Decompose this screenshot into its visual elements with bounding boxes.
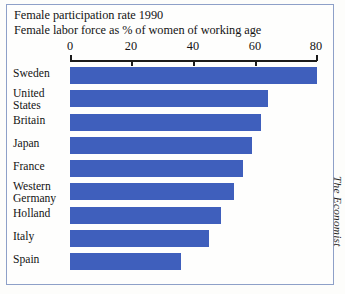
bar-row: Japan	[0, 136, 345, 159]
bar-category-label-line: United	[13, 88, 68, 99]
bar-category-label: UnitedStates	[13, 88, 68, 110]
bar-row: UnitedStates	[0, 89, 345, 112]
bar-category-label-line: Britain	[13, 115, 68, 126]
source-credit: The Economist	[332, 176, 344, 247]
bar	[70, 160, 243, 177]
bar-category-label-line: Holland	[13, 208, 68, 219]
bar-category-label-line: Japan	[13, 138, 68, 149]
x-tick-label-60: 60	[249, 40, 261, 53]
bar	[70, 67, 317, 84]
x-axis-tick-labels: 0 20 40 60 80	[0, 40, 345, 56]
chart-subtitle: Female labor force as % of women of work…	[14, 23, 314, 38]
bar-category-label-line: Western	[13, 181, 68, 192]
bar-category-label-line: States	[13, 100, 68, 111]
bar-row: Italy	[0, 229, 345, 252]
page-title: Female participation rate 1990	[14, 8, 314, 23]
bar-category-label-line: Spain	[13, 254, 68, 265]
bar-row: Holland	[0, 206, 345, 229]
bar	[70, 183, 234, 200]
chart-title-block: Female participation rate 1990 Female la…	[14, 8, 314, 37]
bar-category-label: WesternGermany	[13, 181, 68, 203]
x-tick-label-40: 40	[187, 40, 199, 53]
bar-category-label-line: Italy	[13, 231, 68, 242]
bar-category-label-line: Germany	[13, 193, 68, 204]
bar-row: WesternGermany	[0, 182, 345, 205]
bar-category-label: Japan	[13, 138, 68, 149]
bar-category-label-line: Sweden	[13, 68, 68, 79]
bar-category-label: Spain	[13, 254, 68, 265]
bar	[70, 230, 209, 247]
bar-row: France	[0, 159, 345, 182]
bar-row: Sweden	[0, 66, 345, 89]
bar-category-label: France	[13, 161, 68, 172]
chart-figure: Female participation rate 1990 Female la…	[0, 0, 345, 294]
bar-row: Britain	[0, 113, 345, 136]
bar-category-label: Holland	[13, 208, 68, 219]
x-tick-label-20: 20	[125, 40, 137, 53]
bar-category-label-line: France	[13, 161, 68, 172]
bar-row: Spain	[0, 252, 345, 275]
bar	[70, 137, 252, 154]
bar-plot-area: SwedenUnitedStatesBritainJapanFranceWest…	[0, 66, 345, 276]
bar	[70, 207, 221, 224]
x-tick-label-80: 80	[310, 40, 322, 53]
x-axis-endcap-right	[316, 55, 318, 61]
bar	[70, 253, 181, 270]
x-tick-label-0: 0	[67, 40, 73, 53]
bar	[70, 114, 261, 131]
bar-category-label: Italy	[13, 231, 68, 242]
bar-category-label: Britain	[13, 115, 68, 126]
bar	[70, 90, 268, 107]
x-axis-endcap-left	[70, 55, 72, 61]
bar-category-label: Sweden	[13, 68, 68, 79]
